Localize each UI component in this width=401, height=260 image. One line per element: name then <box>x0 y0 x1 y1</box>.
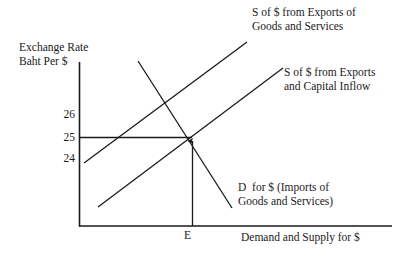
y-tick-label-25: 25 <box>53 131 75 143</box>
y-axis-label: Exchange RateBaht Per $ <box>19 41 88 68</box>
chart-plot-area <box>0 0 401 260</box>
y-tick-label-24: 24 <box>53 152 75 164</box>
demand-curve-imports <box>138 61 232 208</box>
supply-exports-goods-services-label: S of $ from Exports ofGoods and Services <box>252 6 356 33</box>
exchange-rate-supply-demand-figure: Exchange RateBaht Per $ 26 25 24 S of $ … <box>0 0 401 260</box>
supply-exports-capital-inflow-label: S of $ from Exportsand Capital Inflow <box>284 66 375 93</box>
y-axis-label-line1: Exchange Rate <box>19 41 88 53</box>
demand-label-line2: Goods and Services) <box>238 195 333 207</box>
supply-exports-label-line2: Goods and Services <box>252 20 343 32</box>
demand-curve-label: D for $ (Imports ofGoods and Services) <box>238 181 333 208</box>
y-axis-label-line2: Baht Per $ <box>19 55 68 67</box>
supply-capital-label-line2: and Capital Inflow <box>284 80 370 92</box>
equilibrium-point-label: E <box>184 229 191 243</box>
x-axis-label: Demand and Supply for $ <box>241 231 360 245</box>
y-tick-label-26: 26 <box>53 108 75 120</box>
supply-exports-label-line1: S of $ from Exports of <box>252 6 356 18</box>
supply-curve-exports-goods-services <box>84 42 247 163</box>
demand-label-line1: D for $ (Imports of <box>238 181 329 193</box>
supply-capital-label-line1: S of $ from Exports <box>284 66 375 78</box>
